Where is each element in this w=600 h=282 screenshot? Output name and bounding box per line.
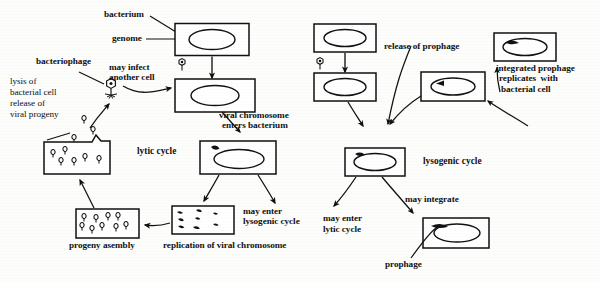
label-may-infect-line2: another cell: [109, 72, 154, 83]
flow-arrow-assembly-to-lysis: [80, 180, 94, 208]
label-may-enter-lytic-line1: may enter: [323, 213, 362, 224]
label-lysis-line2: bacterial cell: [10, 87, 56, 98]
label-may-enter-lysogenic-line1: may enter: [243, 206, 282, 217]
bacterium-box-viral-chromosome-inside: [200, 141, 276, 174]
leader-line-bacterium: [150, 16, 176, 32]
leader-line-lysis: [47, 133, 70, 140]
label-integrated-line3: bacterial cell: [501, 84, 551, 95]
label-lytic-cycle: lytic cycle: [137, 146, 176, 156]
progeny-assembly-box: [76, 209, 139, 238]
label-lysogenic-cycle: lysogenic cycle: [423, 156, 482, 166]
flow-arrow-replication-to-assembly: [145, 223, 170, 226]
flow-arrow-infected-to-lysogenic: [348, 102, 363, 126]
integrated-prophage-box-top: [494, 33, 556, 61]
escaping-progeny-particles: [72, 116, 95, 143]
replication-box: [172, 206, 234, 234]
label-bacterium: bacterium: [104, 9, 144, 20]
label-prophage: prophage: [385, 259, 422, 270]
integrated-prophage-box-bottom: [423, 218, 489, 248]
bacterium-box-uninfected-right: [314, 24, 376, 52]
label-may-integrate: may integrate: [405, 194, 459, 205]
label-lysis-line1: lysis of: [10, 76, 36, 87]
label-bacteriophage: bacteriophage: [36, 56, 91, 67]
label-progeny-assembly: progeny asembly: [69, 240, 135, 251]
label-genome: genome: [112, 33, 142, 44]
label-replication: replication of viral chromosome: [163, 240, 286, 251]
flow-arrow-release-progeny: [90, 104, 109, 128]
flow-arrow-may-enter-lytic: [334, 177, 356, 206]
bacterium-box-prophage-carrier: [345, 148, 405, 176]
label-viral-chromosome-line2: enters bacterium: [222, 120, 288, 131]
attached-phage-icon-right: [317, 58, 323, 70]
bacterium-box-infected-left: [175, 79, 255, 112]
flow-arrow-to-replication: [204, 175, 219, 201]
label-viral-chromosome-line1: viral chromosome: [219, 110, 289, 121]
label-may-enter-lysogenic-line2: lysogenic cycle: [243, 216, 300, 227]
bacterium-box-uninfected-left: [175, 24, 249, 56]
label-lysis-line4: viral progeny: [10, 109, 59, 120]
flow-arrow-excised-to-release: [390, 96, 421, 124]
attached-phage-icon-left: [179, 59, 185, 71]
flow-arrow-may-infect-another-cell: [123, 86, 171, 92]
label-lysis-line3: release of: [10, 98, 45, 109]
label-integrated-line2: replicates with: [499, 73, 558, 84]
leader-line-bacteriophage: [79, 72, 104, 84]
bacterium-box-infected-right: [314, 73, 376, 101]
lysed-bacterium-icon: [44, 135, 110, 174]
flow-arrow-prophage-to-excision: [488, 101, 528, 126]
bacteriophage-life-cycle-diagram: bacterium genome bacteriophage may infec…: [0, 0, 600, 282]
label-release-of-prophage: release of prophage: [384, 41, 459, 52]
flow-arrow-to-lysogenic-option: [258, 175, 275, 203]
excised-prophage-box: [421, 72, 485, 101]
flow-arrow-release-of-prophage: [388, 46, 411, 124]
label-may-enter-lytic-line2: lytic cycle: [323, 224, 361, 235]
label-integrated-line1: integrated prophage: [496, 63, 575, 74]
label-may-infect-line1: may infect: [109, 62, 150, 73]
